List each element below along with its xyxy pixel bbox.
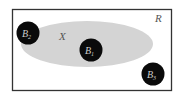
ball-b2: B2 xyxy=(17,22,40,45)
ball-b2-sub: 2 xyxy=(28,34,31,40)
set-label: X xyxy=(58,30,67,42)
ball-b3-sub: 3 xyxy=(152,75,156,81)
ball-b3: B3 xyxy=(142,63,165,86)
ball-b1-sub: 1 xyxy=(91,51,94,57)
diagram-canvas: R X B1 B2 B3 xyxy=(0,0,176,97)
region-label: R xyxy=(154,12,162,24)
ball-b1: B1 xyxy=(80,39,103,62)
